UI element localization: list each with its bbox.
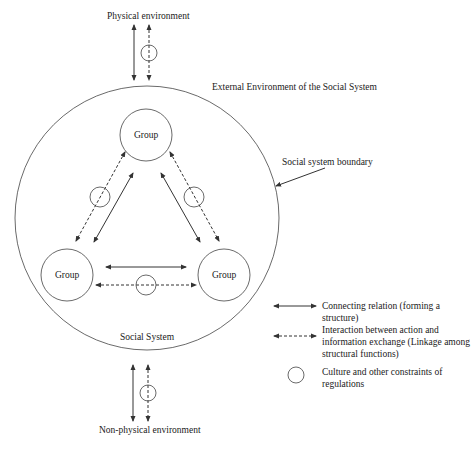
non-physical-environment-label: Non-physical environment — [99, 424, 201, 436]
physical-environment-label: Physical environment — [107, 10, 190, 22]
relation-top-left-solid — [94, 173, 133, 242]
relation-top-right-dashed — [170, 152, 219, 241]
culture-circle-top-right — [184, 187, 204, 207]
group-right-label: Group — [212, 269, 236, 281]
external-environment-label: External Environment of the Social Syste… — [212, 81, 377, 93]
legend-item-culture: Culture and other constraints of regulat… — [322, 366, 472, 390]
relation-top-left-dashed — [76, 152, 125, 241]
group-left-label: Group — [55, 269, 79, 281]
social-system-boundary-circle — [15, 86, 279, 350]
legend-item-interaction: Interaction between action and informati… — [322, 324, 472, 360]
social-system-label: Social System — [120, 331, 174, 343]
legend-circle — [288, 367, 304, 383]
group-top-label: Group — [134, 129, 158, 141]
legend-item-connecting: Connecting relation (forming a structure… — [322, 300, 472, 324]
boundary-pointer-arrow — [276, 168, 325, 186]
relation-top-right-solid — [161, 173, 200, 242]
boundary-label: Social system boundary — [282, 156, 373, 168]
